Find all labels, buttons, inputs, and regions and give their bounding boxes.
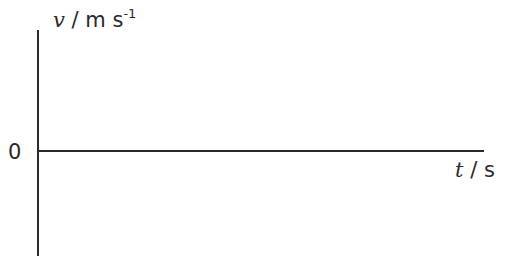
y-axis-label: v / m s-1 <box>53 7 136 31</box>
y-axis-symbol: v <box>53 8 65 32</box>
y-axis-unit-exponent: -1 <box>123 6 136 21</box>
origin-label: 0 <box>8 142 21 163</box>
x-axis-symbol: t <box>455 158 463 182</box>
x-axis-label: t / s <box>455 160 495 181</box>
x-axis-separator: / <box>470 158 477 182</box>
y-axis-unit: m s <box>85 8 123 32</box>
axes <box>0 0 507 256</box>
y-axis-separator: / <box>72 8 79 32</box>
x-axis-unit: s <box>484 158 495 182</box>
